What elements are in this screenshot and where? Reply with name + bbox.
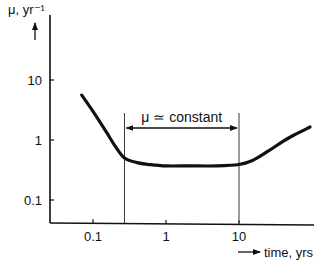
y-tick-label: 10 <box>28 73 42 88</box>
x-tick-label: 1 <box>162 229 169 244</box>
x-tick-label: 0.1 <box>84 229 102 244</box>
annotation-label: μ ≃ constant <box>141 109 222 125</box>
chart: μ, yr⁻¹ time, yrs 0.1110 0.1110 μ ≃ cons… <box>0 0 315 266</box>
y-tick-label: 0.1 <box>24 193 42 208</box>
y-axis-label: μ, yr⁻¹ <box>8 2 46 17</box>
x-axis <box>50 223 314 225</box>
series-line-mu <box>82 95 310 166</box>
x-tick-label: 10 <box>232 229 246 244</box>
x-axis-label: time, yrs <box>264 245 314 260</box>
y-tick-label: 1 <box>35 133 42 148</box>
